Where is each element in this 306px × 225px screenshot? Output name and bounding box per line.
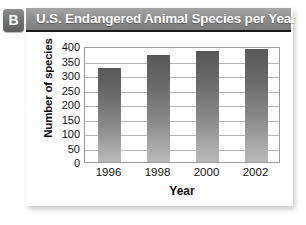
x-axis-tick-label: 1996 (87, 166, 131, 178)
bars-layer (85, 48, 279, 162)
y-axis-tick-label: 200 (52, 100, 80, 110)
chart-body: Number of species 4003503002502001501005… (26, 34, 293, 206)
chart-title: U.S. Endangered Animal Species per Year (36, 11, 296, 26)
y-axis-tick-labels: 400350300250200150100500 (52, 47, 80, 163)
y-axis-tick-label: 350 (52, 57, 80, 67)
figure-badge: B (3, 9, 24, 32)
chart-title-bar: U.S. Endangered Animal Species per Year (26, 8, 291, 32)
bar-1996 (98, 68, 121, 162)
x-axis-tick-label: 2002 (234, 166, 278, 178)
y-axis-tick-label: 150 (52, 115, 80, 125)
y-axis-tick-label: 100 (52, 129, 80, 139)
figure-card: U.S. Endangered Animal Species per Year … (26, 8, 293, 206)
plot-area (84, 47, 280, 163)
y-axis-tick-label: 250 (52, 86, 80, 96)
y-axis-tick-label: 400 (52, 42, 80, 52)
bar-1998 (147, 55, 170, 162)
x-axis-tick-label: 2000 (185, 166, 229, 178)
y-axis-tick-label: 300 (52, 71, 80, 81)
x-axis-title: Year (84, 184, 280, 198)
x-axis-tick-label: 1998 (136, 166, 180, 178)
bar-2000 (196, 51, 219, 162)
y-axis-tick-label: 50 (52, 144, 80, 154)
x-axis-tick-labels: 1996199820002002 (84, 166, 280, 182)
y-axis-tick-label: 0 (52, 158, 80, 168)
bar-2002 (245, 49, 268, 162)
